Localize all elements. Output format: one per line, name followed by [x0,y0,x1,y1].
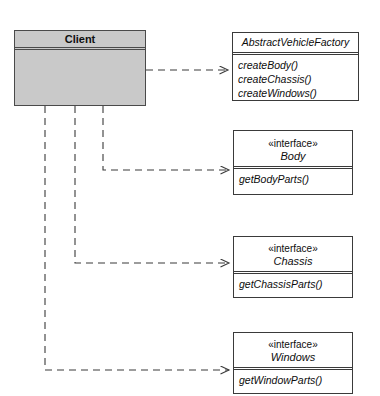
class-name-abstract-vehicle-factory: AbstractVehicleFactory [233,33,358,52]
class-box-body[interactable]: «interface» Body getBodyParts() [233,130,353,195]
operations-windows: getWindowParts() [234,370,352,390]
class-box-windows[interactable]: «interface» Windows getWindowParts() [233,332,353,394]
operation: createChassis() [238,72,358,86]
stereotype-label: «interface» [238,242,348,255]
class-box-abstract-vehicle-factory[interactable]: AbstractVehicleFactory createBody() crea… [232,32,359,101]
operation: getBodyParts() [239,172,352,186]
class-header-chassis: «interface» Chassis [234,237,352,271]
class-name-chassis: Chassis [238,255,348,268]
class-header-body: «interface» Body [234,131,352,166]
class-header-windows: «interface» Windows [234,333,352,367]
operations-abstract-vehicle-factory: createBody() createChassis() createWindo… [233,55,358,103]
class-name-client: Client [15,31,145,47]
stereotype-label: «interface» [238,338,348,351]
operation: getChassisParts() [239,277,352,291]
uml-diagram-canvas: Client AbstractVehicleFactory createBody… [0,0,380,396]
operation: createWindows() [238,86,358,100]
class-members-client [15,50,145,124]
class-box-client[interactable]: Client [14,30,146,106]
class-name-windows: Windows [238,351,348,364]
dependency-client-to-windows [45,106,229,370]
operations-chassis: getChassisParts() [234,274,352,294]
operations-body: getBodyParts() [234,169,352,189]
class-name-body: Body [238,150,348,163]
class-box-chassis[interactable]: «interface» Chassis getChassisParts() [233,236,353,298]
operation: getWindowParts() [239,373,352,387]
stereotype-label: «interface» [238,137,348,150]
dependency-client-to-chassis [75,106,229,263]
operation: createBody() [238,58,358,72]
